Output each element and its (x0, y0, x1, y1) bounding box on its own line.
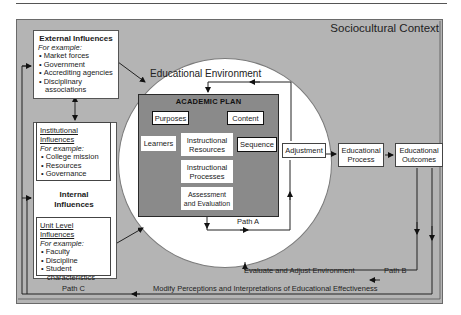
educational-outcomes-box: Educational Outcomes (395, 143, 443, 167)
institutional-influences-box: Institutional Influences For example: Co… (36, 122, 111, 181)
instructional-processes-label: Instructional Processes (182, 163, 232, 181)
adjustment-box: Adjustment (282, 143, 326, 158)
educational-outcomes-label: Educational Outcomes (396, 146, 442, 164)
adjustment-label: Adjustment (285, 146, 323, 155)
unit-level-influences-title: Unit Level Influences (40, 221, 107, 239)
assessment-evaluation-label: Assessment and Evaluation (182, 190, 232, 208)
external-influences-box: External Influences For example: Market … (33, 30, 119, 99)
learners-label: Learners (144, 139, 174, 148)
learners-box: Learners (141, 136, 176, 151)
assessment-evaluation-box: Assessment and Evaluation (181, 187, 233, 210)
external-item: Disciplinary associations (38, 78, 114, 95)
educational-process-box: Educational Process (338, 143, 384, 167)
unit-item: Student characteristics (40, 265, 107, 282)
institutional-item: Governance (40, 170, 107, 179)
purposes-box: Purposes (152, 111, 189, 125)
modify-perceptions-label: Modify Perceptions and Interpretations o… (153, 284, 378, 293)
content-label: Content (232, 114, 258, 123)
educational-process-label: Educational Process (339, 146, 383, 164)
path-c-label: Path C (62, 284, 85, 293)
unit-level-influences-box: Unit Level Influences For example: Facul… (36, 217, 111, 276)
evaluate-adjust-label: Evaluate and Adjust Environment (244, 266, 355, 275)
sequence-label: Sequence (240, 140, 274, 149)
content-box: Content (227, 111, 264, 125)
instructional-resources-box: Instructional Resources (181, 133, 233, 156)
instructional-processes-box: Instructional Processes (181, 160, 233, 183)
external-influences-title: External Influences (38, 34, 114, 43)
sequence-box: Sequence (237, 137, 277, 152)
path-b-label: Path B (384, 266, 407, 275)
internal-influences-title: Internal Influences (52, 190, 96, 209)
purposes-label: Purposes (155, 114, 187, 123)
institutional-influences-title: Institutional Influences (40, 126, 107, 144)
instructional-resources-label: Instructional Resources (182, 136, 232, 154)
academic-plan-title: ACADEMIC PLAN (138, 97, 279, 106)
path-a-label: Path A (237, 217, 259, 226)
